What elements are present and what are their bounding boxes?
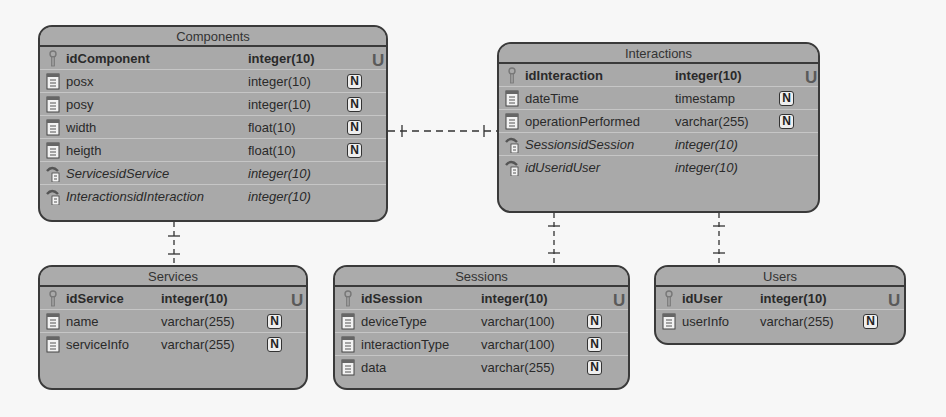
column-icon [505, 90, 519, 107]
field-row[interactable]: operationPerformed varchar(255) N [499, 110, 818, 133]
field-name: idSession [361, 287, 422, 310]
field-row[interactable]: data varchar(255) N [335, 356, 628, 379]
field-row[interactable]: serviceInfo varchar(255) N [40, 333, 306, 356]
entity-services[interactable]: Services idService integer(10) U name va… [38, 265, 308, 390]
field-row[interactable]: dateTime timestamp N [499, 87, 818, 110]
column-icon [341, 313, 355, 330]
field-type: integer(10) [248, 93, 311, 116]
column-icon [46, 313, 60, 330]
field-name: name [66, 310, 99, 333]
column-icon [46, 336, 60, 353]
field-name: serviceInfo [66, 333, 129, 356]
foreign-key-icon [46, 165, 60, 182]
column-icon [46, 119, 60, 136]
column-icon [662, 313, 676, 330]
nullable-badge-icon: N [587, 360, 602, 375]
field-row[interactable]: idUseridUser integer(10) [499, 156, 818, 179]
nullable-badge-icon: N [779, 114, 794, 129]
nullable-badge-icon: N [863, 314, 878, 329]
primary-key-icon [341, 290, 355, 307]
column-icon [46, 96, 60, 113]
field-type: varchar(255) [161, 310, 235, 333]
field-row[interactable]: idSession integer(10) U [335, 287, 628, 310]
field-name: idInteraction [525, 64, 603, 87]
field-type: varchar(255) [760, 310, 834, 333]
column-icon [341, 336, 355, 353]
field-row[interactable]: deviceType varchar(100) N [335, 310, 628, 333]
field-name: heigth [66, 139, 101, 162]
field-name: userInfo [682, 310, 729, 333]
field-type: timestamp [675, 87, 735, 110]
primary-key-icon [46, 50, 60, 67]
field-type: varchar(100) [481, 333, 555, 356]
entity-sessions[interactable]: Sessions idSession integer(10) U deviceT… [333, 265, 630, 390]
field-type: integer(10) [675, 133, 738, 156]
unique-badge-icon: U [291, 289, 303, 312]
field-name: data [361, 356, 386, 379]
field-row[interactable]: SessionsidSession integer(10) [499, 133, 818, 156]
field-type: float(10) [248, 116, 296, 139]
field-type: varchar(255) [481, 356, 555, 379]
nullable-badge-icon: N [267, 314, 282, 329]
field-name: deviceType [361, 310, 427, 333]
field-name: idService [66, 287, 124, 310]
field-row[interactable]: heigth float(10) N [40, 139, 386, 162]
field-row[interactable]: ServicesidService integer(10) [40, 162, 386, 185]
primary-key-icon [46, 290, 60, 307]
entity-title: Components [40, 27, 386, 47]
field-type: integer(10) [248, 70, 311, 93]
unique-badge-icon: U [805, 66, 817, 89]
entity-title: Interactions [499, 44, 818, 64]
column-icon [341, 359, 355, 376]
field-row[interactable]: interactionType varchar(100) N [335, 333, 628, 356]
field-name: interactionType [361, 333, 449, 356]
field-name: operationPerformed [525, 110, 640, 133]
field-name: width [66, 116, 96, 139]
field-row[interactable]: InteractionsidInteraction integer(10) [40, 185, 386, 208]
field-row[interactable]: idComponent integer(10) U [40, 47, 386, 70]
entity-title: Sessions [335, 267, 628, 287]
entity-users[interactable]: Users idUser integer(10) U userInfo varc… [654, 265, 906, 345]
field-type: varchar(255) [161, 333, 235, 356]
nullable-badge-icon: N [347, 143, 362, 158]
field-name: idUser [682, 287, 722, 310]
field-name: posx [66, 70, 93, 93]
field-row[interactable]: idUser integer(10) U [656, 287, 904, 310]
entity-title: Users [656, 267, 904, 287]
field-type: varchar(255) [675, 110, 749, 133]
unique-badge-icon: U [613, 289, 625, 312]
field-type: integer(10) [675, 156, 738, 179]
column-icon [505, 113, 519, 130]
nullable-badge-icon: N [267, 337, 282, 352]
unique-badge-icon: U [888, 289, 900, 312]
nullable-badge-icon: N [347, 97, 362, 112]
field-type: float(10) [248, 139, 296, 162]
primary-key-icon [662, 290, 676, 307]
nullable-badge-icon: N [347, 74, 362, 89]
field-type: integer(10) [248, 47, 314, 70]
foreign-key-icon [505, 136, 519, 153]
entity-interactions[interactable]: Interactions idInteraction integer(10) U… [497, 42, 820, 213]
field-row[interactable]: idService integer(10) U [40, 287, 306, 310]
field-row[interactable]: name varchar(255) N [40, 310, 306, 333]
field-row[interactable]: idInteraction integer(10) U [499, 64, 818, 87]
field-type: integer(10) [481, 287, 547, 310]
field-type: integer(10) [675, 64, 741, 87]
nullable-badge-icon: N [779, 91, 794, 106]
field-row[interactable]: userInfo varchar(255) N [656, 310, 904, 333]
entity-components[interactable]: Components idComponent integer(10) U pos… [38, 25, 388, 222]
field-row[interactable]: width float(10) N [40, 116, 386, 139]
field-row[interactable]: posx integer(10) N [40, 70, 386, 93]
field-type: integer(10) [161, 287, 227, 310]
field-name: ServicesidService [66, 162, 169, 185]
entity-title: Services [40, 267, 306, 287]
column-icon [46, 73, 60, 90]
unique-badge-icon: U [372, 49, 384, 72]
field-name: idComponent [66, 47, 150, 70]
nullable-badge-icon: N [347, 120, 362, 135]
primary-key-icon [505, 67, 519, 84]
nullable-badge-icon: N [587, 314, 602, 329]
field-row[interactable]: posy integer(10) N [40, 93, 386, 116]
field-type: integer(10) [760, 287, 826, 310]
foreign-key-icon [505, 159, 519, 176]
